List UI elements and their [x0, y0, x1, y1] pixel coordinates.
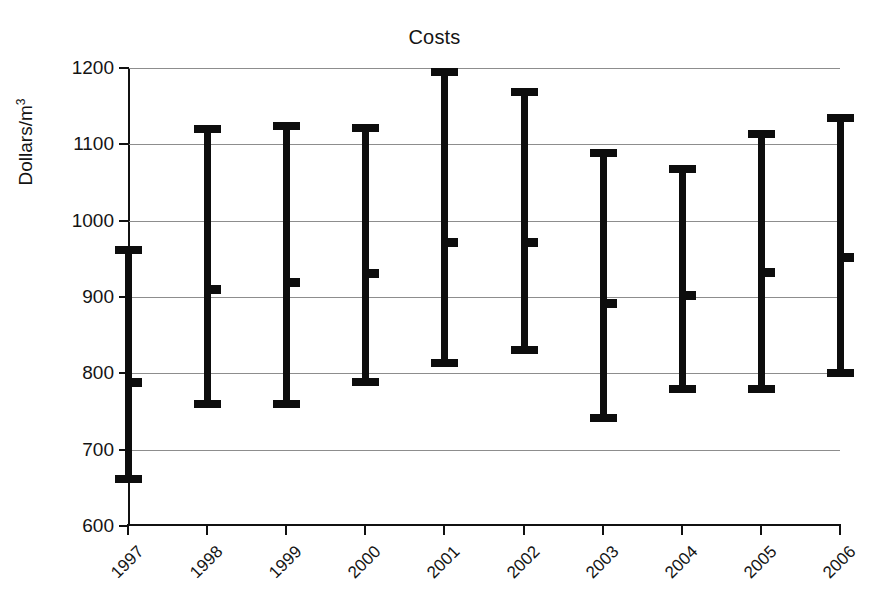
- error-bar-cap-high: [590, 149, 617, 157]
- error-bar-2006: [840, 68, 841, 526]
- error-bar-cap-low: [669, 385, 696, 393]
- chart-title: Costs: [0, 26, 869, 49]
- x-tick-label-2004: 2004: [651, 542, 702, 593]
- error-bar-stem: [600, 153, 607, 418]
- x-axis-line: [128, 524, 840, 526]
- y-axis-label: Dollars/m3: [14, 72, 37, 212]
- error-bar-cap-low: [827, 369, 854, 377]
- x-tick-label-1998: 1998: [176, 542, 227, 593]
- error-bar-2002: [524, 68, 525, 526]
- error-bar-2001: [444, 68, 445, 526]
- y-tick-label: 1200: [72, 57, 114, 79]
- plot-area: 600700800900100011001200 199719981999200…: [128, 68, 840, 526]
- error-bar-cap-high: [115, 246, 142, 254]
- error-bar-2004: [682, 68, 683, 526]
- x-tick-label-2006: 2006: [809, 542, 860, 593]
- gridline: [128, 144, 840, 145]
- x-tick-label-2000: 2000: [335, 542, 386, 593]
- gridline: [128, 68, 840, 69]
- error-bar-stem: [758, 134, 765, 389]
- x-tick-label-1997: 1997: [97, 542, 148, 593]
- x-tick-label-2005: 2005: [730, 542, 781, 593]
- y-tick-label: 700: [82, 439, 114, 461]
- error-bar-cap-low: [511, 346, 538, 354]
- y-tick-label: 900: [82, 286, 114, 308]
- y-axis-label-text: Dollars/m: [15, 105, 36, 185]
- y-axis-label-superscript: 3: [14, 99, 28, 106]
- error-bar-1997: [128, 68, 129, 526]
- error-bar-cap-high: [273, 122, 300, 130]
- error-bar-cap-low: [352, 378, 379, 386]
- error-bar-cap-high: [827, 114, 854, 122]
- error-bar-mid-marker: [600, 299, 617, 308]
- error-bar-2005: [761, 68, 762, 526]
- gridline: [128, 373, 840, 374]
- y-tick-label: 800: [82, 362, 114, 384]
- error-bar-mid-marker: [837, 253, 854, 262]
- error-bar-cap-low: [590, 414, 617, 422]
- error-bar-cap-high: [194, 125, 221, 133]
- error-bar-cap-high: [431, 68, 458, 76]
- error-bar-mid-marker: [679, 291, 696, 300]
- gridline: [128, 297, 840, 298]
- error-bar-cap-low: [431, 359, 458, 367]
- error-bar-mid-marker: [125, 378, 142, 387]
- error-bar-stem: [441, 72, 448, 364]
- error-bar-mid-marker: [521, 238, 538, 247]
- error-bar-stem: [362, 128, 369, 382]
- error-bar-mid-marker: [204, 285, 221, 294]
- error-bar-mid-marker: [283, 278, 300, 287]
- x-tick-label-1999: 1999: [255, 542, 306, 593]
- error-bar-stem: [521, 92, 528, 350]
- error-bar-2000: [365, 68, 366, 526]
- x-tick-label-2003: 2003: [572, 542, 623, 593]
- error-bar-stem: [679, 169, 686, 389]
- error-bar-cap-high: [511, 88, 538, 96]
- x-tick-label-2001: 2001: [414, 542, 465, 593]
- error-bar-2003: [603, 68, 604, 526]
- error-bar-cap-low: [115, 475, 142, 483]
- error-bar-mid-marker: [362, 269, 379, 278]
- x-tick-label-2002: 2002: [493, 542, 544, 593]
- error-bar-mid-marker: [758, 268, 775, 277]
- y-tick-label: 600: [82, 515, 114, 537]
- error-bar-stem: [204, 129, 211, 404]
- error-bar-stem: [283, 126, 290, 404]
- error-bar-cap-low: [194, 400, 221, 408]
- error-bar-cap-high: [669, 165, 696, 173]
- error-bar-mid-marker: [441, 238, 458, 247]
- error-bar-cap-low: [748, 385, 775, 393]
- error-bar-1999: [286, 68, 287, 526]
- y-tick-label: 1000: [72, 210, 114, 232]
- gridline: [128, 221, 840, 222]
- error-bar-stem: [125, 250, 132, 478]
- error-bar-cap-high: [748, 130, 775, 138]
- error-bar-1998: [207, 68, 208, 526]
- gridline: [128, 450, 840, 451]
- y-tick-label: 1100: [73, 133, 114, 155]
- chart-container: Costs Dollars/m3 60070080090010001100120…: [0, 0, 869, 611]
- error-bar-cap-high: [352, 124, 379, 132]
- error-bar-stem: [837, 118, 844, 374]
- error-bar-cap-low: [273, 400, 300, 408]
